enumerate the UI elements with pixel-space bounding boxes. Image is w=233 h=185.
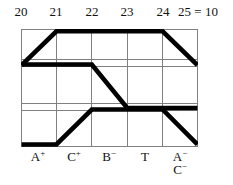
column-label-t: T [141,150,149,163]
waveform-diagram: 20 21 22 23 24 25 = 10 [0,0,233,185]
column-label-b-minus: B− [102,150,116,163]
top-axis-labels: 20 21 22 23 24 25 = 10 [0,0,233,28]
column-label-a-plus: A+ [31,150,45,163]
bottom-axis-labels: A+ C+ B− T A− C− [0,150,233,185]
column-label-c-plus: C+ [67,150,81,163]
top-tick-label-2: 22 [86,4,99,20]
top-tick-label-0: 20 [15,4,28,20]
trace-bottom [22,110,198,145]
column-label-ac-minus: A− C− [173,150,187,176]
column-label-c-minus: C− [173,163,187,176]
top-tick-label-1: 21 [50,4,63,20]
trace-middle [22,65,198,109]
top-tick-label-5: 25 = 10 [178,4,218,20]
top-tick-label-3: 23 [121,4,134,20]
top-tick-label-4: 24 [157,4,170,20]
plot-area [21,29,198,147]
